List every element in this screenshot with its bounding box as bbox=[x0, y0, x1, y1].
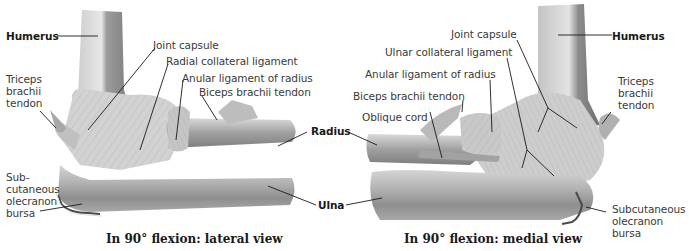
caption-lateral-view: In 90° flexion: lateral view bbox=[106, 232, 283, 246]
elbow-ligaments-figure: Humerus Joint capsule Radial collateral … bbox=[0, 0, 689, 251]
label-lateral-anular-ligament: Anular ligament of radius bbox=[182, 72, 313, 84]
label-lateral-triceps-tendon: Triceps brachii tendon bbox=[6, 73, 42, 109]
label-lateral-joint-capsule: Joint capsule bbox=[153, 39, 219, 51]
label-lateral-radial-collateral-ligament: Radial collateral ligament bbox=[166, 55, 298, 67]
label-lateral-biceps-tendon: Biceps brachii tendon bbox=[199, 86, 311, 98]
label-medial-olecranon-bursa: Subcutaneous olecranon bursa bbox=[612, 203, 685, 239]
label-medial-ulnar-collateral-ligament: Ulnar collateral ligament bbox=[385, 46, 512, 58]
label-medial-joint-capsule: Joint capsule bbox=[451, 28, 517, 40]
caption-medial-view: In 90° flexion: medial view bbox=[404, 232, 582, 246]
label-medial-biceps-tendon: Biceps brachii tendon bbox=[353, 90, 465, 102]
label-lateral-humerus: Humerus bbox=[6, 30, 59, 42]
label-ulna: Ulna bbox=[318, 199, 344, 211]
label-medial-oblique-cord: Oblique cord bbox=[362, 111, 428, 123]
label-lateral-olecranon-bursa: Sub- cutaneous olecranon bursa bbox=[6, 171, 60, 219]
label-medial-anular-ligament: Anular ligament of radius bbox=[365, 68, 496, 80]
label-medial-triceps-tendon: Triceps brachii tendon bbox=[618, 75, 654, 111]
label-medial-humerus: Humerus bbox=[612, 30, 665, 42]
label-radius: Radius bbox=[311, 125, 350, 137]
